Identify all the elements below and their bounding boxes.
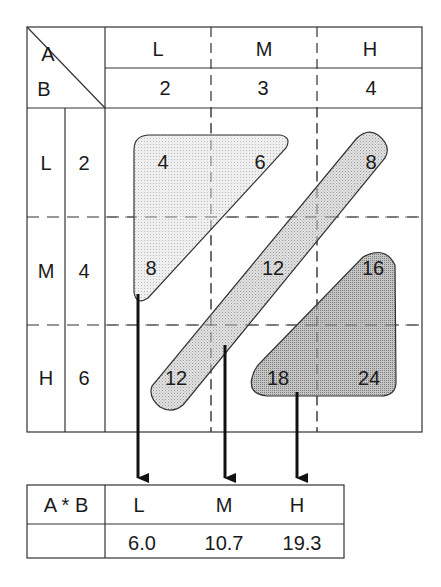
row-value-4: 4 (78, 260, 89, 282)
col-level-H: H (363, 38, 377, 60)
row-level-L: L (40, 152, 51, 174)
cell-M-L: 8 (145, 257, 156, 279)
cell-L-L: 4 (157, 151, 168, 173)
result-mean-M: 10.7 (205, 532, 244, 554)
cell-M-H: 16 (362, 257, 384, 279)
cell-L-H: 8 (365, 151, 376, 173)
row-level-H: H (39, 367, 53, 389)
row-level-M: M (38, 260, 55, 282)
cell-H-L: 12 (165, 367, 187, 389)
col-value-4: 4 (365, 77, 376, 99)
col-level-M: M (256, 38, 273, 60)
col-level-L: L (152, 38, 163, 60)
cell-H-M: 18 (267, 367, 289, 389)
cell-H-H: 24 (358, 367, 380, 389)
result-level-H: H (290, 494, 304, 516)
corner-label-a: A (41, 43, 55, 65)
col-value-3: 3 (257, 77, 268, 99)
cell-L-M: 6 (254, 151, 265, 173)
result-mean-H: 19.3 (283, 532, 322, 554)
result-header-label: A * B (44, 494, 88, 516)
row-value-2: 2 (78, 152, 89, 174)
col-value-2: 2 (159, 77, 170, 99)
cell-M-M: 12 (262, 257, 284, 279)
result-mean-L: 6.0 (128, 532, 156, 554)
row-value-6: 6 (78, 367, 89, 389)
result-level-L: L (133, 494, 144, 516)
result-level-M: M (216, 494, 233, 516)
interaction-diagram: A B L M H 2 3 4 L 2 M 4 H 6 4 6 8 8 12 1… (0, 0, 441, 587)
corner-label-b: B (37, 78, 50, 100)
